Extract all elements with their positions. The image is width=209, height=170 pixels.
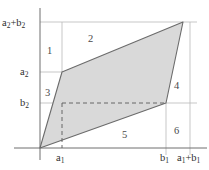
parallelogram-figure: a2+b2 a2 b2 a1 b1 a1+b1 1 2 3 4 5 6 [0, 0, 209, 170]
region-label-3: 3 [45, 88, 50, 99]
axis-label-a1: a1 [56, 153, 64, 165]
axis-label-a2-plus-b2-plus: +b [10, 17, 21, 28]
axis-label-b2: b2 [20, 98, 29, 110]
axis-label-a1-sub: 1 [61, 156, 65, 165]
axis-label-a1-plus-b1: a1+b1 [177, 153, 200, 165]
parallelogram-shape [40, 22, 183, 148]
region-label-4: 4 [174, 81, 179, 92]
axis-label-a2-plus-b2: a2+b2 [2, 18, 25, 30]
axis-label-a2-sub: 2 [25, 70, 29, 79]
region-label-6: 6 [174, 126, 179, 137]
region-label-1: 1 [47, 46, 52, 57]
axis-label-b2-sub: 2 [25, 101, 29, 110]
region-label-2: 2 [88, 34, 93, 45]
axis-label-b1: b1 [160, 153, 169, 165]
axis-label-b1-sub: 1 [165, 156, 169, 165]
axis-label-a2-plus-b2-sub2: 2 [22, 21, 26, 30]
axis-label-a2: a2 [20, 67, 28, 79]
axis-label-a1-plus-b1-plus: +b [185, 152, 196, 163]
axis-label-a1-plus-b1-sub2: 1 [197, 156, 201, 165]
region-label-5: 5 [122, 130, 127, 141]
